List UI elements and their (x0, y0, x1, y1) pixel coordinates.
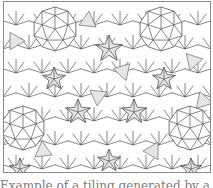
tiling-svg (3, 1, 211, 173)
tiling-figure (3, 1, 211, 173)
figure-caption: Example of a tiling generated by a strip… (0, 176, 213, 188)
